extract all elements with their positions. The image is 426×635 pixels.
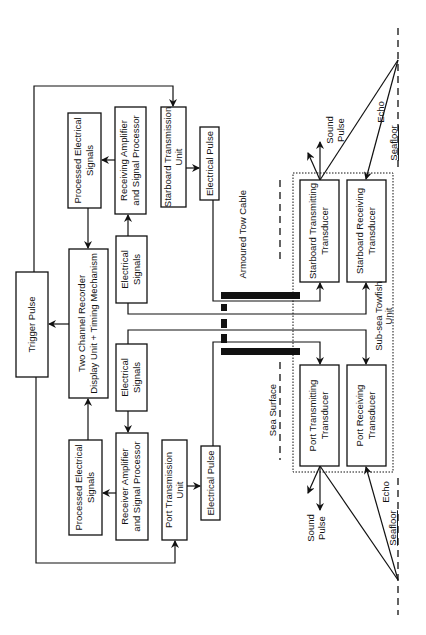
svg-text:Signals: Signals	[85, 472, 96, 503]
box-electrical-signals-bottom: Electrical Signals	[116, 344, 147, 411]
svg-text:Unit: Unit	[173, 148, 184, 165]
svg-text:Electrical Pulse: Electrical Pulse	[205, 451, 216, 516]
svg-text:Transducer: Transducer	[366, 207, 377, 255]
label-echo-bottom: Echo	[380, 481, 391, 503]
svg-text:Port Receiving: Port Receiving	[354, 385, 365, 447]
label-seafloor-top: Seafloor	[388, 125, 399, 160]
svg-text:Port Transmitting: Port Transmitting	[307, 380, 318, 452]
label-sound-pulse-top-2: Pulse	[335, 118, 346, 142]
svg-text:Processed Electrical: Processed Electrical	[72, 117, 83, 203]
box-electrical-signals-top: Electrical Signals	[116, 236, 147, 303]
svg-text:Two Channel Recorder: Two Channel Recorder	[76, 275, 87, 372]
label-seafloor-bottom: Seafloor	[387, 510, 398, 545]
label-sound-pulse-bottom-1: Sound	[305, 514, 316, 541]
svg-text:Receiver Amplifier: Receiver Amplifier	[119, 448, 130, 525]
svg-text:Starboard Transmission: Starboard Transmission	[162, 107, 173, 207]
box-port-transmitting-transducer: Port Transmitting Transducer	[300, 365, 339, 466]
svg-text:Transducer: Transducer	[319, 392, 330, 440]
box-recorder: Two Channel Recorder Display Unit + Timi…	[69, 249, 108, 398]
svg-text:Starboard Transmitting: Starboard Transmitting	[307, 183, 318, 279]
box-starboard-receiving-transducer: Starboard Receiving Transducer	[347, 180, 386, 282]
box-starboard-transmitting-transducer: Starboard Transmitting Transducer	[300, 180, 339, 282]
svg-text:Signals: Signals	[84, 145, 95, 176]
box-electrical-pulse-top: Electrical Pulse	[200, 127, 219, 200]
svg-text:Receiving Amplifier: Receiving Amplifier	[118, 120, 129, 201]
box-trigger-pulse: Trigger Pulse	[16, 272, 48, 377]
box-processed-top: Processed Electrical Signals	[68, 113, 101, 208]
svg-text:Electrical: Electrical	[119, 358, 130, 397]
box-port-receiving-transducer: Port Receiving Transducer	[347, 365, 386, 466]
svg-text:Unit: Unit	[174, 481, 185, 498]
svg-text:Transducer: Transducer	[366, 392, 377, 440]
svg-text:Signals: Signals	[131, 254, 142, 285]
box-starboard-transmission-unit: Starboard Transmission Unit	[161, 107, 186, 207]
svg-text:Port Transmission: Port Transmission	[163, 452, 174, 528]
svg-text:Electrical: Electrical	[119, 250, 130, 289]
label-echo-top: Echo	[375, 101, 386, 123]
label-sound-pulse-top-1: Sound	[324, 116, 335, 143]
svg-text:and Signal Processor: and Signal Processor	[131, 441, 142, 531]
box-port-transmission-unit: Port Transmission Unit	[162, 440, 187, 540]
svg-text:Trigger Pulse: Trigger Pulse	[26, 296, 37, 352]
box-processed-bottom: Processed Electrical Signals	[69, 440, 102, 535]
svg-text:Transducer: Transducer	[319, 207, 330, 255]
svg-text:Signals: Signals	[131, 362, 142, 393]
label-armoured-tow-cable: Armoured Tow Cable	[237, 190, 248, 279]
box-receiver-amp-bottom: Receiver Amplifier and Signal Processor	[116, 433, 148, 540]
svg-text:and Signal Processor: and Signal Processor	[130, 115, 141, 205]
svg-text:Starboard Receiving: Starboard Receiving	[354, 188, 365, 274]
label-towfish-2: Unit	[383, 307, 394, 324]
sonar-block-diagram: Trigger Pulse Two Channel Recorder Displ…	[0, 0, 426, 635]
box-electrical-pulse-bottom: Electrical Pulse	[201, 446, 220, 520]
svg-text:Processed Electrical: Processed Electrical	[73, 444, 84, 530]
svg-text:Display Unit + Timing Mechanis: Display Unit + Timing Mechanism	[88, 253, 99, 394]
label-sound-pulse-bottom-2: Pulse	[316, 516, 327, 540]
svg-text:Electrical Pulse: Electrical Pulse	[204, 131, 215, 196]
box-receiving-amp-top: Receiving Amplifier and Signal Processor	[115, 107, 146, 214]
label-sea-surface: Sea Surface	[267, 384, 278, 436]
